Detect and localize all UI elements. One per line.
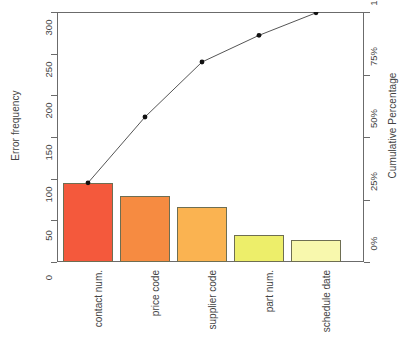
bar [234,235,284,262]
y-tick-label-right: 100% [368,0,379,11]
y-tick-label-right: 0% [368,227,379,261]
x-axis-category-label: contact num. [93,270,104,341]
y-tick-label-left: 50 [43,219,54,253]
y-tick-right [364,200,370,201]
x-axis-category-label: price code [150,270,161,341]
y-tick-label-left: 250 [43,52,54,86]
y-tick-label-left: 100 [43,177,54,211]
x-axis-category-label: part num. [264,270,275,341]
y-tick-right [364,12,370,13]
bar [63,183,113,262]
x-axis-category-label: supplier code [207,270,218,341]
y-tick-label-left: 0 [43,261,54,295]
y-tick-right [364,262,370,263]
bar [291,240,341,263]
y-tick-label-left: 200 [43,94,54,128]
y-tick-label-left: 300 [43,11,54,45]
y-axis-left-title: Error frequency [10,71,21,181]
bar [120,196,170,262]
y-tick-right [364,137,370,138]
y-tick-label-right: 50% [368,102,379,136]
pareto-chart: Error frequency Cumulative Percentage 05… [0,0,407,341]
y-tick-right [364,75,370,76]
y-tick-label-right: 75% [368,39,379,73]
x-axis-category-label: schedule date [321,270,332,341]
y-tick-label-left: 150 [43,136,54,170]
y-axis-right-title: Cumulative Percentage [387,71,398,181]
y-tick-label-right: 25% [368,164,379,198]
bar [177,207,227,262]
